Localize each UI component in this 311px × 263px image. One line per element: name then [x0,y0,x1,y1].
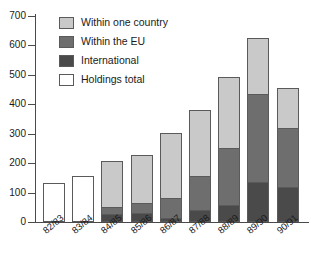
y-axis-tick [28,16,35,17]
bar-group [101,16,123,222]
bar-group [218,16,240,222]
y-axis-tick-label: 100 [0,188,26,198]
bar-group [131,16,153,222]
bar-chart: Within one country Within the EU Interna… [0,0,311,263]
y-axis-tick-label: 700 [0,11,26,21]
y-axis-tick [28,45,35,46]
y-axis-tick [28,163,35,164]
y-axis-tick-label: 400 [0,99,26,109]
y-axis-tick [28,134,35,135]
y-axis-tick-label: 0 [0,217,26,227]
y-axis-tick-label: 300 [0,129,26,139]
y-axis-tick [28,75,35,76]
bar-group [43,16,65,222]
bars-container [36,16,309,222]
bar-group [72,16,94,222]
y-axis-tick [28,222,35,223]
y-axis-tick [28,193,35,194]
bar-group [160,16,182,222]
y-axis-tick-label: 600 [0,40,26,50]
bar-group [277,16,299,222]
bar-group [247,16,269,222]
y-axis-tick-label: 200 [0,158,26,168]
y-axis-tick-label: 500 [0,70,26,80]
y-axis-tick [28,104,35,105]
bar-group [189,16,211,222]
